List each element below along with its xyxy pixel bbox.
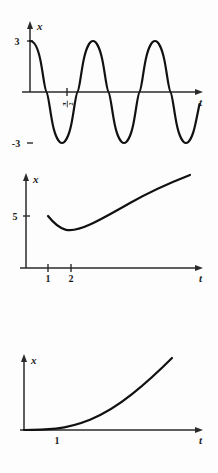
x-axis-label: t	[199, 272, 203, 284]
x-axis-label: t	[199, 96, 203, 108]
pi-denominator: 2	[68, 103, 74, 106]
x-tick-label-1: 1	[46, 273, 51, 284]
y-tick-label-neg3: -3	[12, 138, 20, 149]
y-axis-label: x	[32, 173, 39, 185]
chart-damped-rising-curve: x t 5 1 2	[0, 160, 218, 320]
y-tick-label-3: 3	[15, 36, 20, 47]
chart-exponential-growth: x t 1	[0, 320, 218, 473]
y-axis-label: x	[36, 20, 43, 32]
y-axis-label: x	[30, 354, 37, 366]
chart-cosine-oscillation: x t 3 -3 π 2	[0, 0, 218, 160]
x-axis-label: t	[199, 434, 203, 446]
figure-stack: x t 3 -3 π 2 x t 5 1	[0, 0, 218, 473]
x-tick-label-pi-over-2: π 2	[61, 101, 74, 108]
pi-numerator: π	[61, 102, 67, 106]
y-tick-label-5: 5	[13, 211, 18, 222]
x-tick-label-1: 1	[55, 435, 60, 446]
x-tick-label-2: 2	[69, 273, 74, 284]
